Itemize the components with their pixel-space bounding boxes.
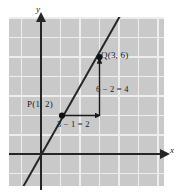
- run-annotation-label: 3 − 1 = 2: [57, 120, 90, 129]
- point-p-marker: [59, 112, 65, 118]
- rise-annotation-label: 6 − 2 = 4: [96, 85, 129, 94]
- slope-diagram-figure: y x Q(3, 6) P(1, 2) 6 − 2 = 4 3 − 1 = 2: [0, 0, 182, 194]
- x-axis-label: x: [170, 146, 174, 155]
- point-q-label: Q(3, 6): [101, 51, 128, 60]
- point-p-label: P(1, 2): [27, 100, 53, 109]
- coordinate-plane-graphic: [0, 0, 182, 194]
- y-axis-label: y: [36, 5, 40, 14]
